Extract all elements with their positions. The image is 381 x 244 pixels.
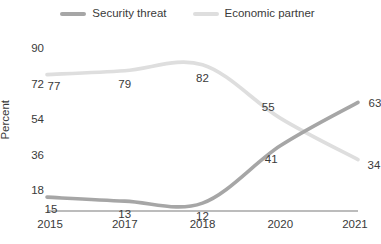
- y-axis-tick-label: 54: [31, 114, 44, 126]
- y-axis-tick-label: 90: [31, 43, 44, 55]
- data-point-label: 34: [368, 160, 381, 172]
- data-point-label: 12: [196, 211, 209, 223]
- x-axis-tick-label: 2015: [37, 219, 63, 231]
- series-line-security-threat: [47, 102, 358, 207]
- y-axis-tick-label: 36: [31, 150, 44, 162]
- y-axis-tick-label: 18: [31, 185, 44, 197]
- y-axis-tick-labels: 9072543618: [0, 0, 44, 244]
- data-point-label: 79: [118, 79, 131, 91]
- y-axis-tick-label: 72: [31, 79, 44, 91]
- x-axis-tick-label: 2020: [267, 219, 293, 231]
- data-point-label: 77: [48, 81, 61, 93]
- data-point-label: 55: [262, 102, 275, 114]
- data-point-label: 41: [265, 154, 278, 166]
- data-point-label: 82: [196, 73, 209, 85]
- data-point-label: 15: [45, 204, 58, 216]
- data-point-label: 63: [369, 99, 381, 111]
- x-axis-tick-label: 2021: [342, 219, 368, 231]
- data-point-label: 13: [118, 209, 131, 221]
